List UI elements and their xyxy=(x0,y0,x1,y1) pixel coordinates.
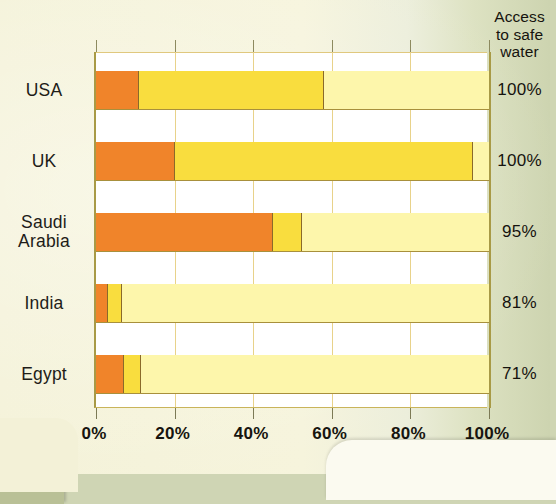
category-label-uk: UK xyxy=(0,152,88,171)
x-tick-bottom xyxy=(96,408,97,419)
access-value-saudi-arabia: 95% xyxy=(489,222,550,242)
bar-segment-3 xyxy=(324,71,489,109)
plot-top-rule xyxy=(96,52,487,53)
category-label-line: UK xyxy=(0,152,88,171)
x-axis-tick-label: 0% xyxy=(81,424,106,444)
x-tick-top xyxy=(96,40,97,52)
access-title-line-3: water xyxy=(489,43,550,61)
plot-area xyxy=(94,52,487,408)
category-label-line: India xyxy=(0,294,88,313)
bar-segment-2 xyxy=(175,142,474,180)
bar-segment-1 xyxy=(96,284,108,322)
category-label-egypt: Egypt xyxy=(0,365,88,384)
bar-segment-2 xyxy=(124,355,142,393)
x-tick-bottom xyxy=(253,408,254,419)
x-tick-top xyxy=(410,40,411,52)
x-tick-bottom xyxy=(410,408,411,419)
bar-segment-3 xyxy=(122,284,489,322)
page-corner-bottom-left xyxy=(0,430,64,504)
access-column-title: Access to safe water xyxy=(489,8,550,61)
bar-segment-1 xyxy=(96,71,139,109)
bar-segment-3 xyxy=(141,355,489,393)
access-column: Access to safe water 100%100%95%81%71% xyxy=(489,0,550,474)
category-label-line: Egypt xyxy=(0,365,88,384)
category-label-india: India xyxy=(0,294,88,313)
x-tick-bottom xyxy=(175,408,176,419)
x-tick-top xyxy=(175,40,176,52)
x-tick-top xyxy=(253,40,254,52)
access-title-line-1: Access xyxy=(489,8,550,26)
access-title-line-2: to safe xyxy=(489,26,550,44)
x-tick-top xyxy=(332,40,333,52)
bar-uk xyxy=(96,142,489,181)
x-axis-tick-label: 40% xyxy=(234,424,269,444)
bar-segment-3 xyxy=(473,142,489,180)
bar-saudi-arabia xyxy=(96,213,489,252)
access-value-india: 81% xyxy=(489,293,550,313)
access-value-usa: 100% xyxy=(489,80,550,100)
bar-segment-1 xyxy=(96,213,273,251)
category-label-line: Saudi xyxy=(0,213,88,232)
category-label-line: Arabia xyxy=(0,232,88,251)
category-axis: USAUKSaudiArabiaIndiaEgypt xyxy=(0,52,88,408)
x-tick-bottom xyxy=(332,408,333,419)
access-value-egypt: 71% xyxy=(489,364,550,384)
bar-segment-1 xyxy=(96,355,124,393)
bar-usa xyxy=(96,71,489,110)
page-corner-bottom-right xyxy=(326,440,556,500)
category-label-line: USA xyxy=(0,81,88,100)
bar-segment-3 xyxy=(302,213,489,251)
category-label-usa: USA xyxy=(0,81,88,100)
bar-segment-2 xyxy=(139,71,324,109)
bar-segment-1 xyxy=(96,142,175,180)
bar-segment-2 xyxy=(273,213,302,251)
bar-india xyxy=(96,284,489,323)
x-axis-tick-label: 20% xyxy=(155,424,190,444)
access-value-uk: 100% xyxy=(489,151,550,171)
bar-segment-2 xyxy=(108,284,122,322)
category-label-saudi-arabia: SaudiArabia xyxy=(0,213,88,251)
bar-egypt xyxy=(96,355,489,394)
